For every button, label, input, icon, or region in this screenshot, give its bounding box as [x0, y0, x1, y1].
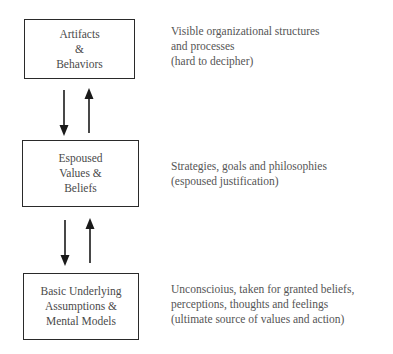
description-line: (espoused justification) — [171, 174, 327, 189]
basic-assumptions-box: Basic Underlying Assumptions & Mental Mo… — [23, 273, 139, 340]
box-line: Mental Models — [46, 314, 116, 329]
espoused-values-description: Strategies, goals and philosophies (espo… — [171, 159, 327, 189]
down-arrow-icon — [59, 220, 71, 268]
basic-assumptions-description: Unconscioius, taken for granted beliefs,… — [171, 282, 354, 327]
box-line: Artifacts — [59, 27, 99, 42]
box-line: & — [75, 42, 84, 57]
artifacts-description: Visible organizational structures and pr… — [171, 24, 320, 69]
box-line: Values & — [59, 166, 101, 181]
description-line: and processes — [171, 39, 320, 54]
box-line: Behaviors — [56, 57, 103, 72]
description-line: perceptions, thoughts and feelings — [171, 297, 354, 312]
artifacts-behaviors-box: Artifacts & Behaviors — [24, 19, 135, 79]
box-line: Espoused — [58, 151, 102, 166]
description-line: (ultimate source of values and action) — [171, 312, 354, 327]
espoused-values-box: Espoused Values & Beliefs — [22, 140, 139, 207]
description-line: (hard to decipher) — [171, 54, 320, 69]
description-line: Unconscioius, taken for granted beliefs, — [171, 282, 354, 297]
description-line: Strategies, goals and philosophies — [171, 159, 327, 174]
up-arrow-icon — [84, 216, 96, 264]
up-arrow-icon — [83, 86, 95, 134]
box-line: Beliefs — [64, 181, 97, 196]
box-line: Assumptions & — [45, 299, 117, 314]
description-line: Visible organizational structures — [171, 24, 320, 39]
box-line: Basic Underlying — [41, 284, 122, 299]
down-arrow-icon — [58, 90, 70, 138]
